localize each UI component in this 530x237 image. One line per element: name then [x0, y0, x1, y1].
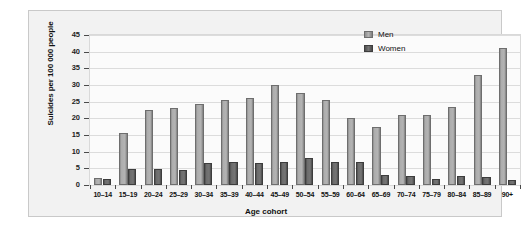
x-tick-mark — [115, 185, 116, 189]
x-tick-mark — [419, 185, 420, 189]
x-tick-label: 40–44 — [242, 191, 267, 198]
x-tick-mark — [242, 185, 243, 189]
x-tick-label: 75–79 — [419, 191, 444, 198]
bar-men — [372, 127, 380, 185]
x-tick-mark — [90, 185, 91, 189]
x-tick-mark — [343, 185, 344, 189]
bar-men — [296, 93, 304, 185]
bar-group — [90, 35, 115, 185]
bar-women — [179, 170, 187, 185]
y-tick-label: 0 — [58, 181, 80, 189]
y-tick-label: 35 — [58, 64, 80, 72]
x-tick-label: 20–24 — [141, 191, 166, 198]
bar-men — [195, 104, 203, 185]
bar-women — [255, 163, 263, 185]
bar-men — [499, 48, 507, 185]
bar-women — [381, 175, 389, 185]
y-tick-mark — [84, 52, 89, 53]
legend-item-men: Men — [364, 29, 405, 40]
bar-men — [398, 115, 406, 185]
bar-group — [191, 35, 216, 185]
bar-men — [246, 98, 254, 185]
x-tick-label: 45–49 — [267, 191, 292, 198]
bar-men — [221, 100, 229, 185]
women-swatch-icon — [364, 45, 373, 52]
y-tick-label: 10 — [58, 148, 80, 156]
x-tick-label: 90+ — [495, 191, 520, 198]
bar-women — [508, 180, 516, 185]
bar-women — [457, 176, 465, 185]
bar-women — [103, 179, 111, 185]
bar-group — [394, 35, 419, 185]
x-tick-label: 65–69 — [368, 191, 393, 198]
bar-group — [242, 35, 267, 185]
x-tick-mark — [267, 185, 268, 189]
x-tick-label: 25–29 — [166, 191, 191, 198]
x-tick-label: 10–14 — [90, 191, 115, 198]
bar-men — [271, 85, 279, 185]
bar-men — [322, 100, 330, 185]
x-tick-mark — [191, 185, 192, 189]
bar-men — [423, 115, 431, 185]
chart-frame: Suicides per 100 000 people 454035302520… — [28, 10, 502, 217]
bar-group — [216, 35, 241, 185]
bar-women — [229, 162, 237, 185]
x-tick-mark — [141, 185, 142, 189]
bar-group — [292, 35, 317, 185]
x-tick-mark — [368, 185, 369, 189]
bar-group — [267, 35, 292, 185]
bar-women — [406, 176, 414, 185]
x-tick-mark — [469, 185, 470, 189]
x-tick-mark — [394, 185, 395, 189]
bar-women — [331, 162, 339, 185]
y-tick-label: 20 — [58, 114, 80, 122]
bar-men — [170, 108, 178, 185]
plot-area — [90, 35, 520, 185]
bar-women — [204, 163, 212, 185]
bar-group — [368, 35, 393, 185]
bar-group — [444, 35, 469, 185]
legend-item-women: Women — [364, 43, 405, 54]
bar-group — [115, 35, 140, 185]
bar-men — [94, 178, 102, 185]
x-tick-label: 35–39 — [216, 191, 241, 198]
x-tick-label: 50–54 — [292, 191, 317, 198]
bar-women — [432, 179, 440, 185]
bar-women — [280, 162, 288, 185]
y-tick-label: 25 — [58, 98, 80, 106]
x-tick-label: 55–59 — [318, 191, 343, 198]
y-tick-mark — [84, 35, 89, 36]
y-tick-label: 40 — [58, 48, 80, 56]
y-axis-label: Suicides per 100 000 people — [46, 0, 55, 149]
y-tick-mark — [84, 68, 89, 69]
bar-group — [141, 35, 166, 185]
bar-women — [154, 169, 162, 185]
bar-women — [356, 162, 364, 185]
x-tick-mark — [216, 185, 217, 189]
x-tick-label: 30–34 — [191, 191, 216, 198]
bar-women — [305, 158, 313, 185]
bar-women — [128, 169, 136, 185]
x-tick-label: 85–89 — [469, 191, 494, 198]
bar-group — [419, 35, 444, 185]
x-tick-mark — [495, 185, 496, 189]
bar-group — [469, 35, 494, 185]
bar-group — [343, 35, 368, 185]
bar-men — [119, 133, 127, 185]
y-tick-label: 30 — [58, 81, 80, 89]
y-tick-label: 45 — [58, 31, 80, 39]
bar-men — [347, 118, 355, 185]
x-tick-label: 80–84 — [444, 191, 469, 198]
x-tick-mark — [292, 185, 293, 189]
y-tick-mark — [84, 118, 89, 119]
x-axis-label: Age cohort — [29, 207, 503, 216]
legend-label-men: Men — [378, 30, 394, 39]
bar-men — [474, 75, 482, 185]
y-tick-label: 15 — [58, 131, 80, 139]
x-tick-mark — [318, 185, 319, 189]
bar-women — [482, 177, 490, 185]
y-tick-mark — [84, 185, 89, 186]
men-swatch-icon — [364, 31, 373, 38]
x-tick-mark — [444, 185, 445, 189]
x-tick-mark — [166, 185, 167, 189]
